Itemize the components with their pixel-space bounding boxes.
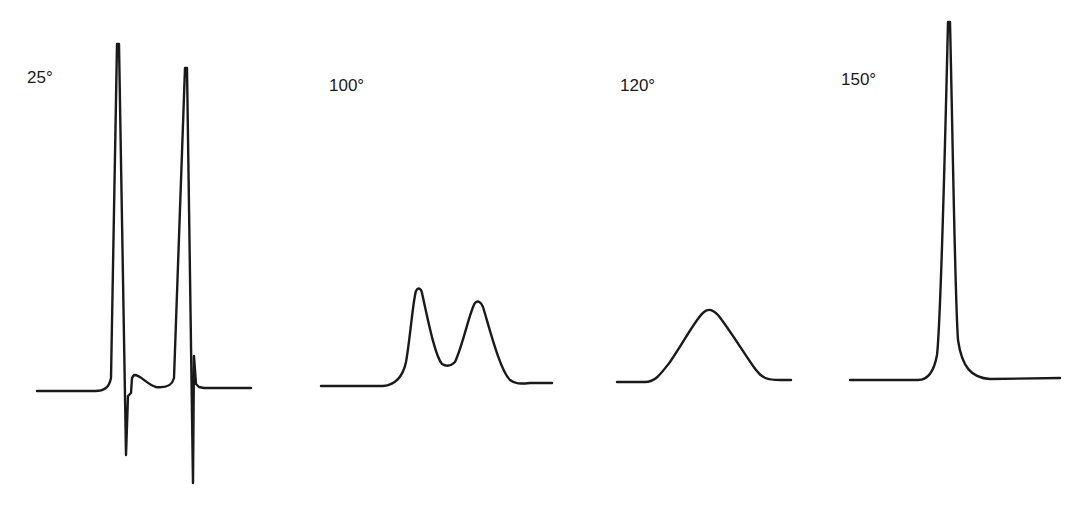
spectra-plot [0, 0, 1085, 510]
spectrum-25 [37, 44, 251, 483]
spectrum-150 [850, 22, 1060, 380]
spectra-figure: 25° 100° 120° 150° [0, 0, 1085, 510]
spectrum-100 [321, 289, 552, 386]
spectrum-120 [617, 310, 791, 382]
